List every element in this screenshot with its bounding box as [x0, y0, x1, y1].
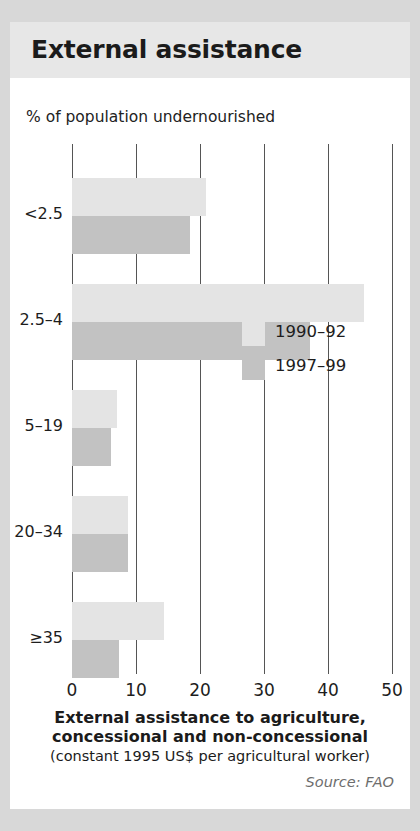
legend-swatch-icon — [242, 321, 265, 346]
category-label: 20–34 — [14, 522, 63, 541]
bar — [72, 640, 119, 678]
bar — [72, 534, 128, 572]
category-label: <2.5 — [24, 204, 63, 223]
bar — [72, 390, 117, 428]
page-title: External assistance — [31, 35, 302, 64]
bar-group: 5–19 — [72, 390, 392, 466]
chart-footer: External assistance to agriculture, conc… — [10, 708, 410, 764]
x-tick-label: 10 — [125, 680, 147, 700]
bar — [72, 216, 190, 254]
x-tick-label: 40 — [317, 680, 339, 700]
legend-label: 1997–99 — [275, 356, 346, 375]
plot-area: <2.52.5–45–1920–34≥35 — [72, 144, 392, 674]
x-axis-label-line2: concessional and non-concessional — [10, 727, 410, 746]
bar — [72, 428, 111, 466]
bar — [72, 602, 164, 640]
x-tick-label: 50 — [381, 680, 403, 700]
bar-group: ≥35 — [72, 602, 392, 678]
category-label: 5–19 — [24, 416, 63, 435]
y-axis-caption: % of population undernourished — [26, 108, 275, 126]
bar — [72, 178, 206, 216]
x-tick-label: 0 — [67, 680, 78, 700]
x-axis-units: (constant 1995 US$ per agricultural work… — [10, 748, 410, 764]
legend-swatch-icon — [242, 355, 265, 380]
bar-group: <2.5 — [72, 178, 392, 254]
gridline — [392, 144, 393, 674]
source-attribution: Source: FAO — [306, 774, 394, 790]
title-band: External assistance — [10, 22, 410, 78]
x-axis-label-line1: External assistance to agriculture, — [10, 708, 410, 727]
legend-label: 1990–92 — [275, 322, 346, 341]
bar-group: 20–34 — [72, 496, 392, 572]
x-tick-label: 20 — [189, 680, 211, 700]
category-label: ≥35 — [29, 628, 63, 647]
chart-card: External assistance % of population unde… — [10, 22, 410, 809]
category-label: 2.5–4 — [19, 310, 63, 329]
bar — [72, 496, 128, 534]
x-tick-label: 30 — [253, 680, 275, 700]
bar — [72, 284, 364, 322]
